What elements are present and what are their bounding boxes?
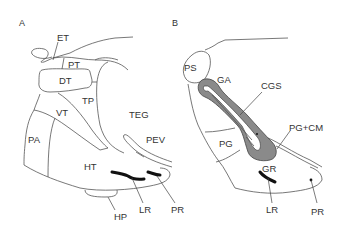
b-pr-leader — [311, 180, 317, 203]
label-cgs: CGS — [261, 80, 282, 91]
label-pr-b: PR — [311, 206, 324, 217]
label-et: ET — [57, 32, 69, 43]
label-vt: VT — [56, 107, 68, 118]
panel-a: A ET PT — [19, 18, 184, 222]
lr-leader — [132, 178, 143, 203]
label-ht: HT — [84, 161, 97, 172]
cgs-dot — [256, 133, 258, 135]
label-teg: TEG — [129, 109, 149, 120]
label-pa: PA — [28, 134, 41, 145]
label-pev: PEV — [146, 134, 166, 145]
lr-structure — [112, 172, 144, 179]
pr-structure — [148, 172, 160, 175]
label-gr: GR — [262, 163, 276, 174]
label-pr-a: PR — [171, 204, 184, 215]
brain-section-diagram: A ET PT — [0, 0, 347, 233]
pr-leader — [157, 176, 175, 203]
label-ga: GA — [217, 74, 231, 85]
label-dt: DT — [59, 75, 72, 86]
panel-b: B PS GA CGS PG+CM PG — [172, 18, 324, 217]
label-pt: PT — [68, 59, 80, 70]
label-lr-b: LR — [266, 204, 278, 215]
label-ps: PS — [184, 62, 197, 73]
pt-tectum-line — [53, 57, 128, 70]
label-tp: TP — [82, 95, 94, 106]
hp-outline — [85, 190, 117, 197]
dorsal-outline — [70, 37, 133, 53]
vt-left-boundary — [34, 94, 40, 110]
pg-top — [205, 128, 235, 132]
b-ventral-outline — [235, 167, 322, 193]
panel-a-label: A — [19, 18, 25, 28]
teg-boundary — [97, 62, 124, 153]
vt-lower-boundary — [34, 110, 108, 150]
pa-ht-boundary — [48, 118, 55, 177]
pg-bottom — [216, 150, 240, 162]
label-hp: HP — [114, 211, 127, 222]
cgs-leader — [240, 92, 262, 115]
pgcm-tube-2 — [276, 146, 318, 168]
label-pg: PG — [219, 138, 233, 149]
b-dorsal-outline — [205, 38, 288, 50]
label-pg-cm: PG+CM — [289, 122, 323, 133]
label-lr-a: LR — [139, 204, 151, 215]
pt-divider — [62, 58, 64, 69]
pev-leader — [136, 152, 144, 157]
hp-leader — [108, 197, 115, 210]
panel-b-label: B — [172, 18, 178, 28]
ventral-outline — [24, 165, 170, 190]
et-outline — [32, 48, 70, 62]
